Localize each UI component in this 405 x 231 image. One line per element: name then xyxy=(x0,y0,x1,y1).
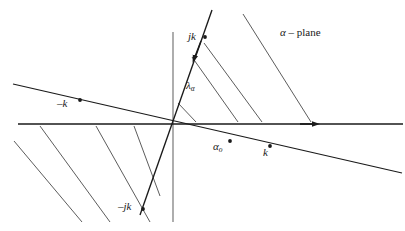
label-plane-dash: – xyxy=(286,26,297,38)
label-alpha-plane: α – plane xyxy=(280,27,321,38)
marker-point-k xyxy=(268,144,272,148)
label-alpha-zero-subscript: o xyxy=(219,145,223,154)
label-lambda-alpha: λα xyxy=(186,80,195,92)
hatch-line xyxy=(14,141,82,222)
label-jk: jk xyxy=(188,31,196,42)
tilted-contour-line xyxy=(13,84,402,173)
marker-point-alpha-zero xyxy=(228,139,232,143)
label-negative-k: –k xyxy=(57,98,67,109)
hatch-line xyxy=(134,126,160,196)
label-plane-word: plane xyxy=(297,26,321,38)
hatch-line xyxy=(178,103,196,122)
hatch-line xyxy=(204,43,262,122)
diagram-svg xyxy=(0,0,405,231)
marker-point-neg-jk xyxy=(141,207,145,211)
steep-contour-arrow xyxy=(194,41,201,59)
label-lambda-subscript: α xyxy=(191,84,195,93)
label-k: k xyxy=(263,147,268,158)
label-negative-jk: –jk xyxy=(118,201,131,212)
figure-canvas: jk –jk –k k λα αo α – plane xyxy=(0,0,405,231)
marker-point-jk xyxy=(203,35,207,39)
steep-contour-line xyxy=(140,10,212,215)
hatch-line xyxy=(40,126,110,222)
hatch-group-lower-left xyxy=(14,126,160,222)
marker-point-neg-k xyxy=(78,98,82,102)
hatch-line xyxy=(192,57,238,122)
label-alpha-zero: αo xyxy=(213,141,223,153)
